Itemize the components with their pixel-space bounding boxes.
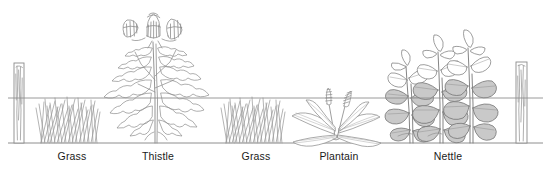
plant-label-grass-2: Grass xyxy=(242,150,271,162)
grass-icon xyxy=(221,97,285,143)
figure-canvas xyxy=(0,0,551,169)
right-post xyxy=(516,62,527,143)
nettle-icon xyxy=(385,30,498,143)
plant-label-nettle: Nettle xyxy=(434,150,462,162)
plant-label-plantain: Plantain xyxy=(319,150,358,162)
plant-label-thistle: Thistle xyxy=(142,150,174,162)
grass-icon xyxy=(36,97,100,143)
plant-label-grass-1: Grass xyxy=(58,150,87,162)
plantain-icon xyxy=(292,88,381,147)
vegetation-profile-figure: Grass Thistle Grass Plantain Nettle xyxy=(0,0,551,169)
thistle-icon xyxy=(104,13,209,143)
left-post xyxy=(14,63,24,143)
